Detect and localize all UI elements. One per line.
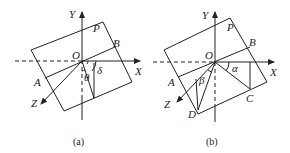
panel-b: Y X Z O P B A C D α β (b) <box>153 9 278 148</box>
alpha-arc <box>226 62 229 71</box>
label-c: C <box>246 92 254 104</box>
label-z: Z <box>164 98 171 110</box>
label-alpha: α <box>232 62 238 74</box>
label-delta: δ <box>97 64 103 76</box>
caption-b: (b) <box>206 136 218 148</box>
label-d: D <box>187 108 196 120</box>
panel-a: Y X Z O P B A δ θ (a) <box>15 8 143 148</box>
line-d-vertical <box>196 79 198 110</box>
diagram-canvas: Y X Z O P B A δ θ (a) Y X Z O P B A C D … <box>0 0 290 153</box>
label-o: O <box>205 49 213 61</box>
label-y: Y <box>69 8 77 20</box>
label-b: B <box>113 37 120 49</box>
label-y: Y <box>202 9 210 21</box>
label-o: O <box>72 49 80 61</box>
label-p: P <box>92 22 100 34</box>
label-x: X <box>269 66 278 78</box>
label-b: B <box>249 36 256 48</box>
label-beta: β <box>198 74 205 86</box>
label-theta: θ <box>84 71 90 83</box>
line-od <box>198 62 215 110</box>
label-x: X <box>134 65 143 77</box>
label-a: A <box>167 76 175 88</box>
caption-a: (a) <box>73 136 84 148</box>
label-z: Z <box>31 97 38 109</box>
z-axis <box>41 61 82 104</box>
label-a: A <box>33 76 41 88</box>
label-p: P <box>226 21 234 33</box>
